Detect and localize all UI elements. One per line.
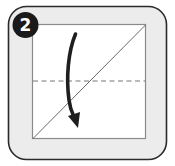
origami-step-diagram: 2 <box>0 0 175 166</box>
step-number-badge: 2 <box>13 12 39 38</box>
step-number-label: 2 <box>20 15 32 35</box>
